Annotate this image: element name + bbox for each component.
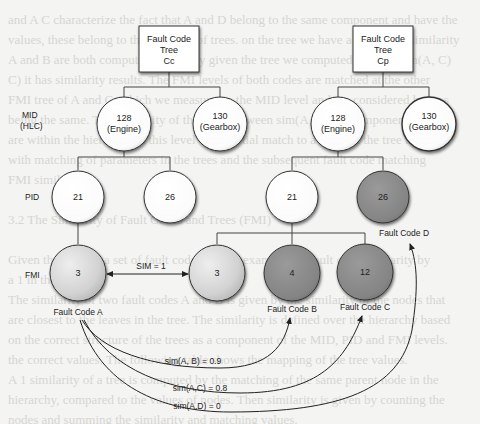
fault-code-c-label: Fault Code C [340,302,390,312]
sim-ac-curve [84,316,362,393]
node-cp-mid-engine-id: 128 [330,113,345,123]
node-cp-pid-26-label: 26 [378,192,388,202]
tree-root-cc-line1: Fault Code [147,34,191,44]
node-cc-mid-engine-id: 128 [116,113,131,123]
node-cp-fmi-4-label: 4 [289,268,294,278]
tree-root-cp-line1: Fault Code [361,34,405,44]
node-cp-mid-gearbox-id: 130 [421,111,436,121]
sim-ab-label: sim(A, B) = 0.9 [165,356,222,366]
node-cc-fmi-3-label: 3 [75,268,80,278]
node-cp-pid-21-label: 21 [287,192,297,202]
fault-code-tree-diagram: Fault Code Tree Cc Fault Code Tree Cp MI… [0,0,480,424]
level-label-hlc: (HLC) [20,121,43,131]
node-cc-mid-engine-name: (Engine) [107,124,141,134]
fault-code-a-label: Fault Code A [53,307,102,317]
tree-root-cp-line2: Tree [374,45,392,55]
sim-equal-label: SIM = 1 [136,261,166,271]
node-cp-mid-engine-name: (Engine) [321,124,355,134]
node-cp-fmi-3-label: 3 [214,268,219,278]
fault-code-b-label: Fault Code B [267,304,317,314]
tree-root-cc-line2: Tree [160,45,178,55]
node-cp-fmi-12-label: 12 [360,267,370,277]
tree-root-cc-line3: Cc [164,56,175,66]
tree-root-cp-line3: Cp [377,56,389,66]
node-cc-pid-26-label: 26 [165,192,175,202]
level-label-mid: MID [22,110,38,120]
level-label-fmi: FMI [25,270,40,280]
node-cc-mid-gearbox-id: 130 [212,111,227,121]
node-cp-mid-gearbox-name: (Gearbox) [409,122,450,132]
level-label-pid: PID [25,192,39,202]
sim-ac-label: sim(A,C) = 0.8 [173,383,228,393]
node-cc-mid-gearbox-name: (Gearbox) [200,122,241,132]
sim-ad-label: sim(A,D) = 0 [173,401,221,411]
fault-code-d-label: Fault Code D [379,228,429,238]
node-cc-pid-21-label: 21 [73,192,83,202]
